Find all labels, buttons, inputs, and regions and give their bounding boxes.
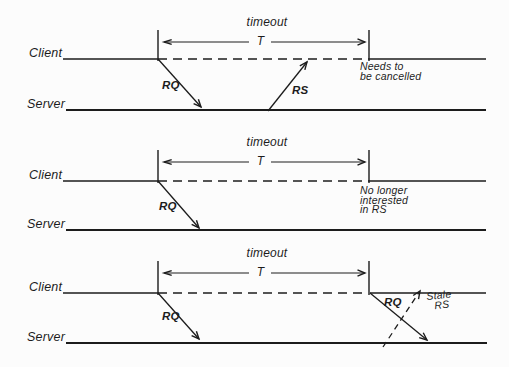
timeout-label: timeout	[239, 136, 295, 149]
cancel-note: Needs to be cancelled	[360, 62, 421, 81]
server-lifeline-label: Server	[27, 218, 65, 231]
rq-label: RQ	[162, 310, 180, 322]
cancel-note-line-2: be cancelled	[360, 72, 421, 82]
server-lifeline-label: Server	[27, 331, 65, 344]
diagram-geometry	[0, 0, 509, 367]
timeout-sequence-figure: timeout T Client Server RQ RS Needs to b…	[0, 0, 509, 367]
not-interested-note-line-3: in RS	[360, 205, 408, 215]
rq-label: RQ	[159, 200, 177, 212]
stale-rs-note: Stale RS	[426, 289, 453, 311]
not-interested-note: No longer interested in RS	[360, 186, 408, 215]
server-lifeline-label: Server	[27, 98, 65, 111]
retry-rq-label: RQ	[384, 296, 402, 308]
diagram-2-geometry	[63, 150, 486, 230]
timeout-label: timeout	[239, 16, 295, 29]
client-lifeline-label: Client	[29, 281, 62, 294]
diagram-3-geometry	[63, 261, 487, 347]
rq-label: RQ	[162, 79, 180, 91]
client-lifeline-label: Client	[29, 47, 62, 60]
stale-rs-note-line-2: RS	[434, 299, 453, 310]
client-lifeline-label: Client	[29, 169, 62, 182]
t-label: T	[250, 35, 271, 48]
rs-label: RS	[292, 84, 308, 96]
diagram-1-geometry	[63, 30, 486, 111]
t-label: T	[250, 155, 271, 168]
timeout-label: timeout	[239, 247, 295, 260]
t-label: T	[250, 266, 271, 279]
